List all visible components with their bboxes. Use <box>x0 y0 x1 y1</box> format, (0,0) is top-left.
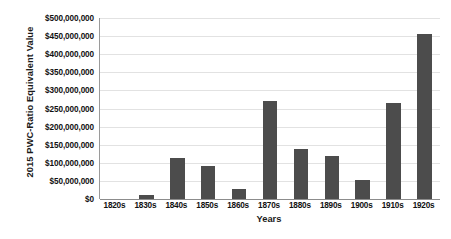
y-axis-tick-label: $100,000,000 <box>45 158 94 167</box>
bar-series <box>100 18 440 199</box>
y-axis-tick-label: $150,000,000 <box>45 140 94 149</box>
y-axis-tick-label: $400,000,000 <box>45 50 94 59</box>
bar <box>417 34 432 199</box>
y-axis-tick-label: $500,000,000 <box>45 14 94 23</box>
bar-slot <box>193 18 224 199</box>
bar-slot <box>100 18 131 199</box>
y-axis-tick-label: $50,000,000 <box>50 176 94 185</box>
x-axis-tick-label: 1900s <box>346 201 377 210</box>
bar-slot <box>285 18 316 199</box>
y-axis-tick-label: $0 <box>85 195 94 204</box>
bar-slot <box>409 18 440 199</box>
y-axis-tick-label: $450,000,000 <box>45 32 94 41</box>
bar-slot <box>255 18 286 199</box>
bar-slot <box>347 18 378 199</box>
y-axis-tick-label: $200,000,000 <box>45 122 94 131</box>
x-axis-tick-label: 1890s <box>315 201 346 210</box>
bar <box>170 158 185 199</box>
bar <box>201 166 216 199</box>
plot-area <box>99 18 440 199</box>
bar <box>325 156 340 199</box>
bar-slot <box>378 18 409 199</box>
x-axis-tick-label: 1820s <box>99 201 130 210</box>
bar <box>263 101 278 199</box>
x-axis-tick-label: 1840s <box>161 201 192 210</box>
x-axis-tick-label: 1850s <box>192 201 223 210</box>
bar-slot <box>316 18 347 199</box>
bar <box>139 195 154 199</box>
x-axis-tick-label: 1880s <box>284 201 315 210</box>
y-axis-tick-label: $300,000,000 <box>45 86 94 95</box>
x-axis-title: Years <box>99 214 439 224</box>
x-axis-tick-label: 1870s <box>254 201 285 210</box>
bar-slot <box>224 18 255 199</box>
bar <box>232 189 247 199</box>
y-axis-tick-label: $250,000,000 <box>45 104 94 113</box>
bar <box>386 103 401 199</box>
bar-chart: 2015 PWC-Ratio Equivalent Value $500,000… <box>0 0 451 239</box>
y-axis-tick-label: $350,000,000 <box>45 68 94 77</box>
bar <box>294 149 309 199</box>
x-axis-tick-label: 1860s <box>223 201 254 210</box>
bar-slot <box>131 18 162 199</box>
x-axis-tick-label: 1910s <box>377 201 408 210</box>
x-axis-tick-label: 1920s <box>408 201 439 210</box>
bar <box>355 180 370 199</box>
bar-slot <box>162 18 193 199</box>
y-axis-tick-labels: $500,000,000$450,000,000$400,000,000$350… <box>28 18 96 199</box>
x-axis-tick-labels: 1820s1830s1840s1850s1860s1870s1880s1890s… <box>99 201 439 210</box>
x-axis-tick-label: 1830s <box>130 201 161 210</box>
